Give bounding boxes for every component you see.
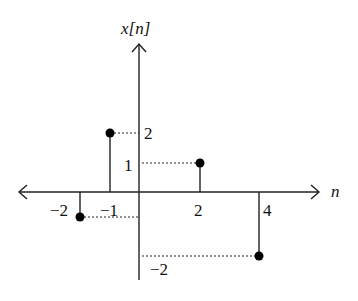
tick-n-2: 2 — [194, 201, 203, 220]
markers — [76, 129, 264, 261]
stems — [80, 133, 259, 256]
marker-n-minus1 — [106, 129, 115, 138]
axes — [19, 44, 319, 280]
x-axis-label: n — [331, 182, 340, 201]
tick-y-minus2: −2 — [150, 260, 168, 279]
y-axis-label: x[n] — [120, 19, 150, 38]
marker-n-2 — [196, 159, 205, 168]
tick-n-4: 4 — [263, 201, 272, 220]
tick-y-2: 2 — [144, 124, 153, 143]
tick-n-minus1: −1 — [100, 201, 118, 220]
tick-y-1: 1 — [124, 156, 133, 175]
tick-n-minus2: −2 — [50, 201, 68, 220]
marker-n-minus2 — [76, 213, 85, 222]
guide-lines — [80, 133, 259, 256]
marker-n-4 — [255, 252, 264, 261]
stem-plot: x[n] n −2 −1 2 4 2 1 −2 — [0, 0, 358, 301]
